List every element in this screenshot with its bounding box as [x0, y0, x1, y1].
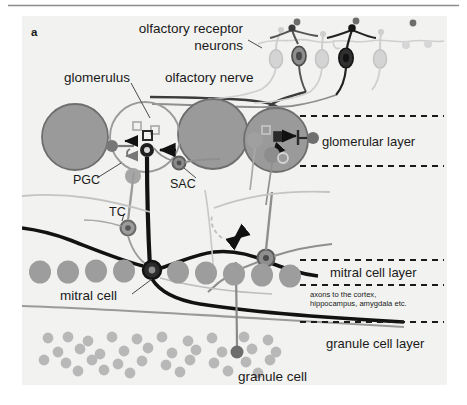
mitral-nucleus [149, 267, 156, 274]
sac-nucleus [177, 161, 182, 166]
mitral-soma-row [167, 261, 189, 284]
panel-label: a [31, 26, 38, 38]
odorant-dot [410, 20, 417, 27]
label-pgc: PGC [73, 173, 100, 187]
figure-panel: olfactory receptor neurons glomerulus ol… [0, 0, 467, 405]
label-sac: SAC [170, 177, 196, 191]
label-mitral-cell: mitral cell [60, 288, 117, 303]
label-glomerular-layer: glomerular layer [322, 134, 416, 149]
mitral-soma-row [113, 260, 135, 283]
mitral-nucleus [263, 255, 269, 261]
mitral-soma-row [195, 262, 217, 285]
tc-nucleus [125, 225, 131, 231]
label-granule-cell-layer: granule cell layer [326, 336, 425, 351]
mitral-soma-row [279, 265, 301, 288]
label-axons-line1: axons to the cortex, [310, 290, 376, 299]
label-receptor-neurons-line1: olfactory receptor [139, 21, 244, 36]
label-glomerulus: glomerulus [64, 70, 130, 85]
sac-terminal [264, 147, 280, 163]
mitral-soma-row [85, 260, 107, 283]
odorant-dot [353, 18, 360, 25]
receptor-terminal [402, 41, 410, 49]
glomerulus-left [42, 104, 108, 170]
mitral-soma-row [29, 261, 51, 284]
olfactory-bulb-diagram: olfactory receptor neurons glomerulus ol… [0, 0, 467, 405]
pgc-terminal [106, 140, 118, 152]
label-granule-cell: granule cell [238, 369, 307, 384]
mitral-soma-row [251, 264, 273, 287]
label-olfactory-nerve: olfactory nerve [165, 70, 254, 85]
synapse-terminal-core [144, 147, 150, 153]
label-tc: TC [109, 205, 126, 219]
label-mitral-cell-layer: mitral cell layer [330, 265, 417, 280]
mitral-soma-row [57, 261, 79, 284]
odorant-dot [294, 19, 301, 26]
receptor-terminal [424, 40, 432, 48]
synapse-square-filled [274, 132, 283, 141]
pgc-soma [247, 132, 263, 148]
synapse-knob [307, 132, 319, 144]
label-receptor-neurons-line2: neurons [194, 38, 243, 53]
granule-soma [231, 346, 244, 359]
label-axons-line2: hippocampus, amygdala etc. [310, 299, 407, 308]
mitral-soma-row [223, 263, 245, 286]
